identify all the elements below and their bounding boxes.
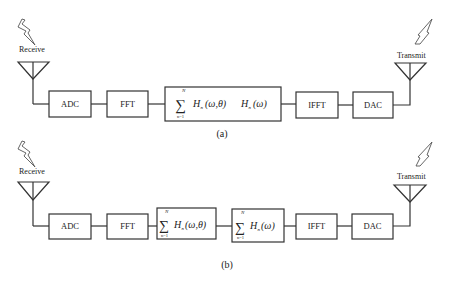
svg-text:N: N [164,209,169,214]
signal-chain-diagram: Receive ADC FFT N ∑ n=1 H n (ω,θ) H [0,0,452,285]
svg-text:DAC: DAC [364,100,382,110]
svg-text:(ω,θ): (ω,θ) [205,98,227,110]
transmit-antenna-icon [394,185,426,202]
svg-text:N: N [240,210,245,215]
transmit-lightning-icon [416,142,432,166]
wire-dac-antenna [393,80,410,105]
svg-text:FFT: FFT [120,221,135,231]
diagram-b: Receive ADC FFT N ∑ n=1 H n (ω,θ) [18,141,432,271]
caption-b: (b) [221,259,233,271]
svg-text:(ω,θ): (ω,θ) [185,219,207,231]
svg-text:IFFT: IFFT [308,100,326,110]
dac-block: DAC [353,92,393,118]
transmit-antenna-icon [395,63,426,80]
svg-text:(ω): (ω) [253,98,267,110]
sigma-icon: ∑ [159,218,169,233]
svg-text:N: N [181,88,186,93]
sum-theta-block: N ∑ n=1 H n (ω,θ) [157,208,216,239]
svg-text:FFT: FFT [120,99,135,109]
ifft-block: IFFT [296,214,337,239]
svg-text:n=1: n=1 [161,233,168,238]
receive-antenna-icon [18,62,49,104]
receive-label: Receive [19,167,45,176]
combined-sum-block: N ∑ n=1 H n (ω,θ) H n (ω) [165,87,281,121]
svg-text:DAC: DAC [364,221,382,231]
adc-block: ADC [49,91,91,117]
diagram-a: Receive ADC FFT N ∑ n=1 H n (ω,θ) H [18,19,432,140]
receive-label: Receive [19,45,45,54]
transmit-label: Transmit [397,51,426,60]
sum-omega-block: N ∑ n=1 H n (ω) [232,209,284,242]
ifft-block: IFFT [296,92,338,118]
dac-block: DAC [352,214,393,239]
svg-text:n=1: n=1 [177,114,184,119]
transmit-lightning-icon [415,19,432,44]
receive-lightning-icon [18,19,35,45]
svg-text:ADC: ADC [61,221,79,231]
fft-block: FFT [107,91,148,117]
svg-text:IFFT: IFFT [308,221,326,231]
adc-block: ADC [49,214,91,239]
wire-dac-antenna [393,202,410,226]
transmit-label: Transmit [397,172,426,181]
svg-text:n=1: n=1 [237,235,244,240]
fft-block: FFT [107,214,148,239]
sigma-icon: ∑ [235,220,245,235]
svg-text:(ω): (ω) [261,220,275,232]
svg-text:ADC: ADC [61,99,79,109]
caption-a: (a) [216,128,227,140]
receive-lightning-icon [18,141,35,167]
receive-antenna-icon [18,182,49,226]
sigma-icon: ∑ [175,97,186,114]
